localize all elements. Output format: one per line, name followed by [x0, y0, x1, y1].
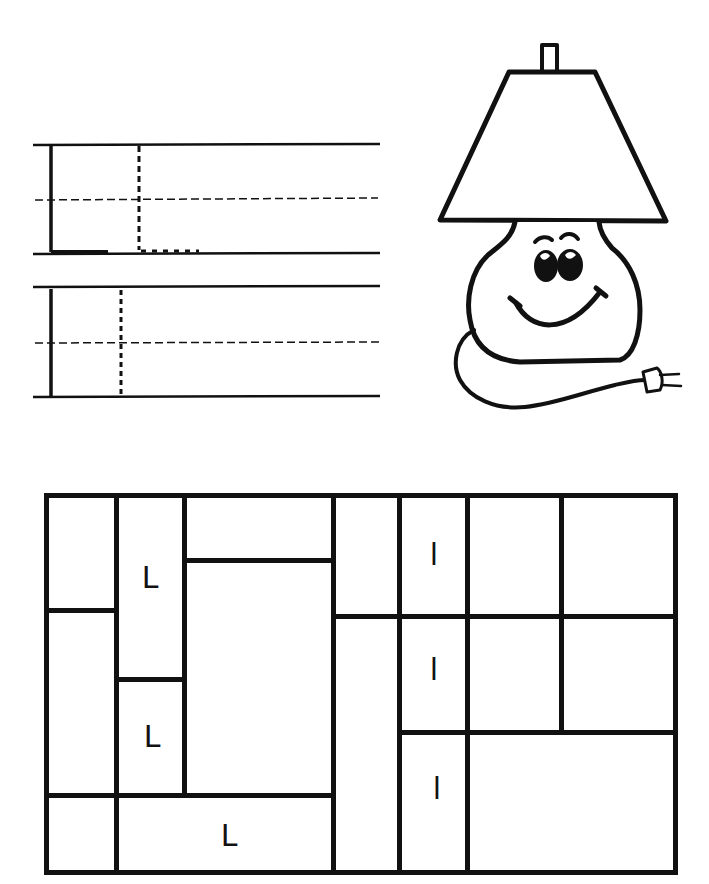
grid-line	[333, 614, 675, 619]
grid-line	[46, 793, 333, 798]
grid-cell-letter[interactable]: l	[430, 655, 438, 685]
grid-cell-letter[interactable]: L	[144, 722, 161, 752]
grid-line	[114, 495, 119, 873]
grid-line	[184, 558, 333, 563]
grid-line	[46, 608, 116, 613]
grid-line	[400, 730, 675, 735]
grid-line	[182, 495, 187, 797]
grid-line	[116, 677, 184, 682]
grid-cell-letter[interactable]: L	[142, 563, 159, 593]
grid-cell-letter[interactable]: l	[430, 540, 438, 570]
grid-border-top	[44, 493, 678, 498]
grid-cell-letter[interactable]: L	[221, 821, 238, 851]
grid-cell-letter[interactable]: l	[433, 774, 441, 804]
grid-line	[397, 495, 402, 873]
grid-border-bottom	[44, 870, 678, 875]
grid-line	[331, 495, 336, 873]
grid-border-left	[44, 493, 49, 875]
grid-border-right	[673, 493, 678, 875]
grid-line	[465, 495, 470, 873]
letter-grid: L L L l l l	[0, 0, 709, 884]
